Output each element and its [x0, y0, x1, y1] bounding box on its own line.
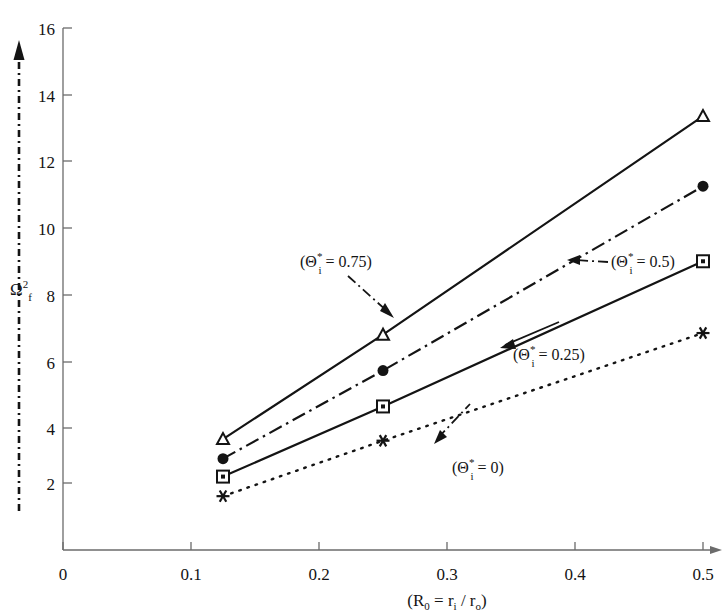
data-point-filled-circle	[378, 365, 389, 376]
x-axis-title: (R0 = ri / ro)	[407, 591, 486, 612]
x-tick-04: 0.4	[564, 565, 586, 584]
y-tick-6: 6	[47, 354, 56, 373]
y-axis-title: Ω2f	[10, 278, 32, 303]
y-tick-4: 4	[47, 420, 56, 439]
ann0-value: = 0.75)	[321, 253, 371, 271]
y-tick-2: 2	[47, 475, 56, 494]
ann3-theta: Θ	[457, 459, 469, 476]
series-markers	[217, 110, 710, 502]
series-line-theta-05	[223, 186, 703, 458]
x-axis-title-open: (R	[407, 591, 425, 610]
x-axis-ticks	[63, 542, 703, 550]
y-axis-title-superscript: 2	[23, 278, 29, 290]
x-tick-01: 0.1	[180, 565, 201, 584]
ann2-theta: Θ	[518, 346, 530, 363]
y-axis-direction-arrow	[14, 40, 25, 512]
x-tick-03: 0.3	[436, 565, 457, 584]
leader-theta-075	[348, 276, 394, 318]
omega-squared-vs-radius-ratio-chart: 16 14 12 10 8 6 4 2 0 0.1 0.2 0.3 0.4 0.…	[0, 0, 724, 614]
series-lines	[223, 116, 703, 496]
annotation-theta-05: (Θ*i = 0.5)	[611, 250, 675, 276]
ann0-theta: Θ	[305, 253, 317, 270]
ann1-theta: Θ	[616, 253, 628, 270]
x-axis-title-close: )	[481, 591, 487, 610]
chart-canvas: 16 14 12 10 8 6 4 2 0 0.1 0.2 0.3 0.4 0.…	[0, 0, 724, 614]
data-point-triangle	[697, 110, 709, 121]
data-point-triangle	[217, 433, 229, 444]
annotation-theta-075: (Θ*i = 0.75)	[300, 250, 372, 276]
x-axis-title-equals: = r	[430, 591, 454, 610]
data-point-asterisk	[377, 435, 390, 446]
data-point-square	[697, 255, 709, 267]
data-point-asterisk	[697, 327, 710, 338]
y-axis-ticks	[63, 28, 72, 483]
svg-text:(R0 = ri / ro): (R0 = ri / ro)	[407, 591, 486, 612]
ann1-value: = 0.5)	[632, 253, 674, 271]
y-tick-12: 12	[38, 153, 55, 172]
y-tick-14: 14	[38, 87, 56, 106]
annotation-theta-025: (Θ*i = 0.25)	[513, 343, 585, 369]
leader-theta-05	[567, 255, 608, 265]
ann3-value: = 0)	[473, 459, 503, 477]
data-point-square	[377, 400, 389, 412]
series-line-theta-075	[223, 116, 703, 439]
y-tick-8: 8	[47, 287, 56, 306]
data-point-asterisk	[217, 491, 230, 502]
y-tick-10: 10	[38, 220, 55, 239]
svg-text:Ω2f: Ω2f	[10, 278, 32, 303]
y-tick-16: 16	[38, 20, 55, 39]
y-axis-title-base: Ω	[10, 280, 23, 299]
data-point-square	[217, 471, 229, 483]
data-point-triangle	[377, 329, 389, 340]
x-tick-0: 0	[59, 565, 68, 584]
x-tick-05: 0.5	[692, 565, 713, 584]
x-tick-02: 0.2	[308, 565, 329, 584]
series-line-theta-025	[223, 261, 703, 476]
axis-lines	[63, 28, 722, 554]
x-axis-title-slash: / r	[457, 591, 476, 610]
annotation-theta-0: (Θ*i = 0)	[452, 456, 504, 482]
data-point-filled-circle	[218, 453, 229, 464]
ann2-value: = 0.25)	[534, 346, 584, 364]
y-axis-tick-labels: 16 14 12 10 8 6 4 2	[38, 20, 56, 494]
x-axis-tick-labels: 0 0.1 0.2 0.3 0.4 0.5	[59, 565, 714, 584]
annotation-labels: (Θ*i = 0.75) (Θ*i = 0.5) (Θ*i = 0.25) (Θ…	[300, 250, 675, 482]
leader-theta-0	[434, 404, 470, 444]
data-point-filled-circle	[698, 181, 709, 192]
y-axis-title-subscript: f	[28, 291, 32, 303]
